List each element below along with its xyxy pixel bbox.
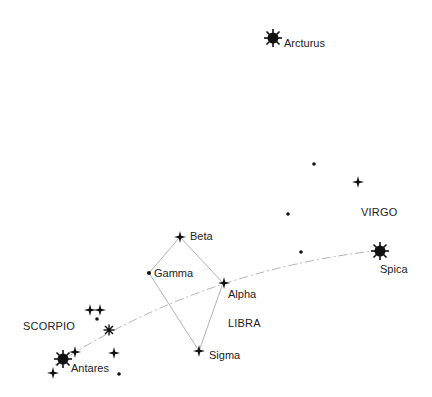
virgo-cross-star-icon	[352, 176, 364, 188]
scorpio-dot-star-icon	[95, 317, 99, 321]
virgo-dot-star-icon	[299, 250, 303, 254]
scorpio-constellation-label: SCORPIO	[23, 320, 75, 332]
beta-label: Beta	[190, 230, 214, 242]
alpha-label: Alpha	[228, 288, 257, 300]
scorpio-cross-star-icon	[69, 346, 81, 358]
antares-star-icon	[54, 350, 72, 368]
scorpio-cross-star-icon	[108, 347, 120, 359]
libra-constellation-label: LIBRA	[228, 317, 261, 329]
scorpio-cross-star-icon	[47, 367, 59, 379]
ecliptic-line	[55, 250, 382, 365]
virgo-dot-star-icon	[286, 212, 290, 216]
scorpio-cross-star-icon	[94, 304, 106, 316]
scorpio-dot-star-icon	[117, 372, 121, 376]
gamma-label: Gamma	[154, 267, 194, 279]
virgo-constellation-label: VIRGO	[361, 206, 398, 218]
gamma-star-icon	[147, 271, 151, 275]
antares-label: Antares	[71, 362, 109, 374]
scorpio-asterisk-star-icon	[104, 325, 115, 336]
star-chart: Arcturus VIRGO Spica Beta Gamma Alpha LI…	[0, 0, 432, 397]
virgo-dot-star-icon	[312, 162, 316, 166]
arcturus-star-icon	[264, 29, 282, 47]
arcturus-label: Arcturus	[284, 37, 325, 49]
sigma-label: Sigma	[209, 349, 241, 361]
sigma-star-icon	[193, 345, 205, 357]
spica-star-icon	[371, 242, 389, 260]
libra-lines	[149, 237, 223, 351]
spica-label: Spica	[380, 263, 408, 275]
